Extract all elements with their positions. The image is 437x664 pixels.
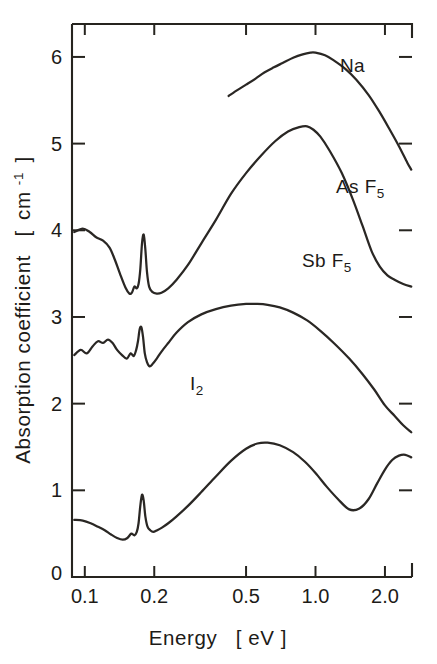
- plot-frame: [72, 24, 412, 577]
- x-axis-title: Energy [ eV ]: [149, 626, 287, 649]
- y-axis-ticks: [72, 57, 412, 490]
- x-axis-title-main: Energy: [149, 626, 218, 649]
- i2-label: I2: [190, 373, 204, 398]
- y-tick-label-1: 1: [51, 479, 62, 501]
- sbf5-label-base: Sb F: [302, 250, 344, 271]
- data-curves: [74, 52, 411, 539]
- i2-label-subscript: 2: [196, 383, 204, 398]
- y-axis-title-main: Absorption coefficient: [11, 255, 34, 464]
- y-tick-label-3: 3: [51, 306, 62, 328]
- y-axis-tick-labels: 0123456: [51, 46, 62, 584]
- svg-text:Energy [ eV ]: Energy [ eV ]: [149, 626, 287, 649]
- svg-text:Absorption coefficient: Absorption coefficient [ cm -1 ]: [4, 156, 34, 463]
- absorption-spectra-chart: 0.10.20.51.02.0 0123456 NaAs F5Sb F5I2 E…: [0, 0, 437, 664]
- asf5-label-subscript: 5: [377, 186, 385, 201]
- curve-i2: [74, 443, 411, 540]
- asf5-label-base: As F: [336, 176, 377, 197]
- y-axis-unit-base: cm: [11, 191, 34, 220]
- y-axis-unit-close: ]: [11, 156, 34, 162]
- curve-na: [229, 52, 412, 169]
- sbf5-label: Sb F5: [302, 250, 352, 275]
- figure-container: 0.10.20.51.02.0 0123456 NaAs F5Sb F5I2 E…: [0, 0, 437, 664]
- x-tick-label-0.1: 0.1: [71, 585, 99, 607]
- y-tick-label-2: 2: [51, 393, 62, 415]
- y-axis-title: Absorption coefficient [ cm -1 ]: [4, 156, 34, 463]
- y-tick-label-6: 6: [51, 46, 62, 68]
- curve-sbf5: [74, 304, 411, 432]
- y-tick-label-0: 0: [51, 562, 62, 584]
- series-annotations: NaAs F5Sb F5I2: [190, 55, 385, 398]
- x-axis-title-unit: [ eV ]: [236, 626, 287, 649]
- y-axis-unit-exponent: -1: [11, 172, 26, 185]
- x-tick-label-0.5: 0.5: [232, 585, 260, 607]
- y-tick-label-5: 5: [51, 133, 62, 155]
- sbf5-label-subscript: 5: [344, 260, 352, 275]
- y-axis-unit-open: [: [11, 230, 34, 236]
- x-tick-label-2.0: 2.0: [371, 585, 399, 607]
- na-label: Na: [340, 55, 365, 76]
- y-tick-label-4: 4: [51, 219, 62, 241]
- asf5-label: As F5: [336, 176, 385, 201]
- x-axis-tick-labels: 0.10.20.51.02.0: [71, 585, 399, 607]
- x-axis-ticks: [85, 24, 385, 577]
- x-tick-label-0.2: 0.2: [140, 585, 168, 607]
- curve-asf5: [74, 126, 411, 294]
- x-tick-label-1.0: 1.0: [302, 585, 330, 607]
